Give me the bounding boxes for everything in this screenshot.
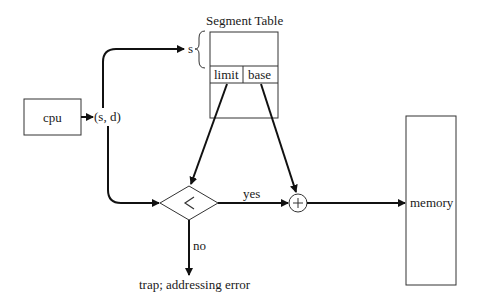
no-label: no — [193, 239, 206, 252]
cpu-label: cpu — [43, 111, 62, 124]
comparator-diamond — [160, 186, 218, 220]
memory-label: memory — [410, 196, 453, 209]
offset-arrow — [108, 126, 159, 203]
segment-number-arrow — [103, 49, 184, 108]
trap-label: trap; addressing error — [139, 278, 250, 291]
limit-arrow — [191, 84, 227, 184]
segmentation-diagram — [0, 0, 477, 302]
brace-icon — [195, 31, 205, 68]
yes-label: yes — [243, 187, 260, 200]
base-column-label: base — [248, 68, 271, 81]
segment-table-title: Segment Table — [206, 14, 283, 27]
segment-index-label: s — [188, 42, 193, 55]
limit-column-label: limit — [214, 68, 239, 81]
logical-address-label: (s, d) — [94, 110, 121, 123]
